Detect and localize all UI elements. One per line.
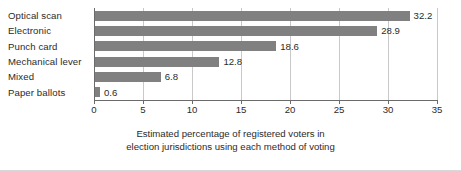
bar-row: 0.6 xyxy=(94,85,437,100)
x-tick-label: 25 xyxy=(334,104,345,115)
bar-row: 28.9 xyxy=(94,23,437,38)
bar-row: 18.6 xyxy=(94,39,437,54)
x-tick-label: 35 xyxy=(432,104,443,115)
x-tick-label: 0 xyxy=(91,104,96,115)
bar-row: 32.2 xyxy=(94,8,437,23)
bar xyxy=(94,11,410,21)
chart-caption: Estimated percentage of registered voter… xyxy=(0,127,461,153)
bar-value-label: 0.6 xyxy=(100,85,117,100)
category-axis-labels: Optical scanElectronicPunch cardMechanic… xyxy=(0,8,86,100)
y-axis-line xyxy=(94,8,95,100)
bar-value-label: 18.6 xyxy=(276,39,299,54)
bar-value-label: 28.9 xyxy=(377,23,400,38)
x-tick-label: 20 xyxy=(285,104,296,115)
bar xyxy=(94,26,377,36)
x-tick-label: 15 xyxy=(236,104,247,115)
bar-chart-figure: Optical scanElectronicPunch cardMechanic… xyxy=(0,0,461,171)
caption-line-1: Estimated percentage of registered voter… xyxy=(0,127,461,140)
x-tick-label: 30 xyxy=(383,104,394,115)
plot-area: 32.228.918.612.86.80.6 xyxy=(94,8,437,100)
category-label: Optical scan xyxy=(0,8,82,23)
bar-value-label: 32.2 xyxy=(410,8,433,23)
bar-row: 6.8 xyxy=(94,69,437,84)
category-label: Punch card xyxy=(0,39,82,54)
bar-row: 12.8 xyxy=(94,54,437,69)
x-tick-label: 10 xyxy=(187,104,198,115)
bar-value-label: 12.8 xyxy=(219,54,242,69)
caption-line-2: election jurisdictions using each method… xyxy=(0,140,461,153)
x-axis-ticks: 05101520253035 xyxy=(94,100,437,122)
x-tick-label: 5 xyxy=(140,104,145,115)
gridline xyxy=(437,8,438,100)
category-label: Electronic xyxy=(0,23,82,38)
bar-value-label: 6.8 xyxy=(161,69,178,84)
category-label: Mechanical lever xyxy=(0,54,82,69)
bar xyxy=(94,57,219,67)
bar xyxy=(94,72,161,82)
category-label: Paper ballots xyxy=(0,85,82,100)
category-label: Mixed xyxy=(0,69,82,84)
bar xyxy=(94,41,276,51)
